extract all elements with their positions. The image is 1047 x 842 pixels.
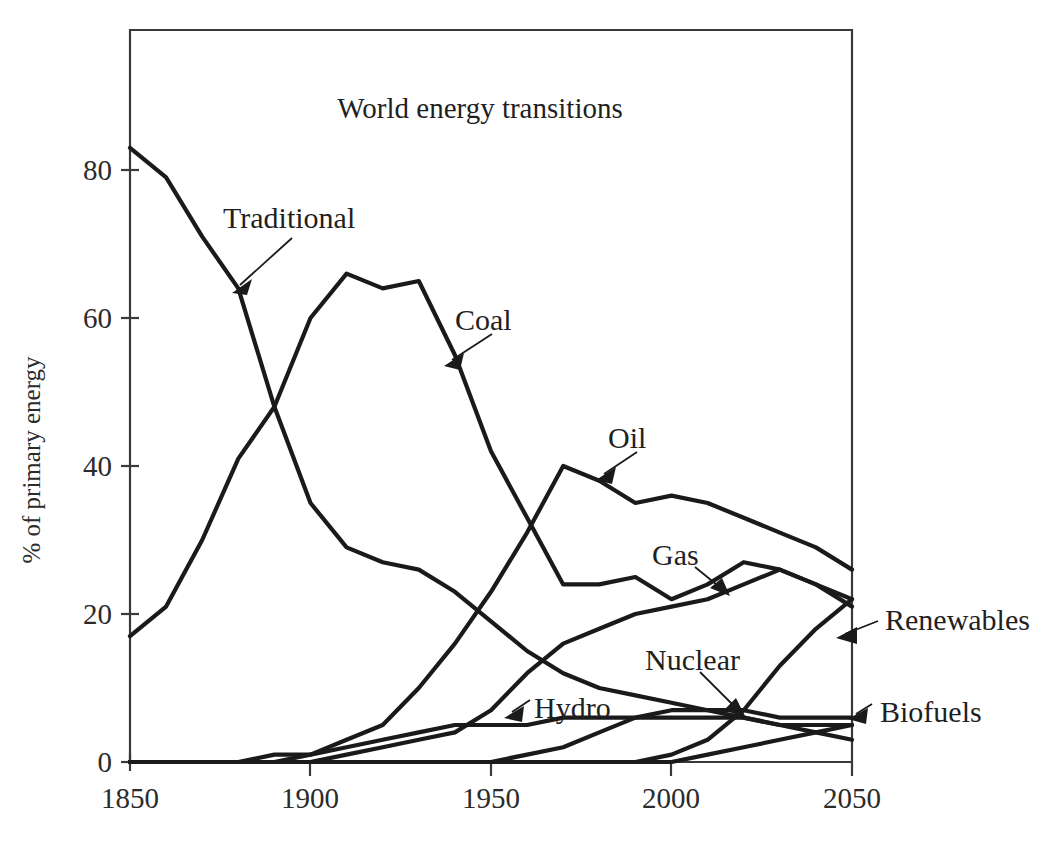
leader-line-traditional — [240, 238, 292, 285]
y-tick-label-60: 60 — [83, 302, 112, 334]
plot-frame — [130, 30, 852, 762]
x-tick-label-1900: 1900 — [281, 782, 339, 814]
leader-line-oil — [604, 452, 637, 474]
series-lines — [130, 148, 852, 762]
chart-figure: 0 20 40 60 80 1850 1900 1950 2000 2050 %… — [0, 0, 1047, 842]
leader-arrow-hydro — [504, 706, 524, 722]
series-label-traditional: Traditional — [223, 201, 355, 234]
y-tick-label-40: 40 — [83, 450, 112, 482]
y-tick-label-20: 20 — [83, 598, 112, 630]
x-tick-marks — [130, 753, 852, 776]
series-label-nuclear: Nuclear — [645, 643, 740, 676]
series-label-oil: Oil — [608, 421, 646, 454]
series-label-coal: Coal — [455, 303, 512, 336]
series-line-traditional — [130, 148, 852, 740]
series-label-gas: Gas — [652, 538, 699, 571]
page-title: World energy transitions — [337, 92, 622, 124]
leader-line-coal — [452, 334, 492, 360]
series-line-biofuels — [130, 725, 852, 762]
y-tick-label-80: 80 — [83, 154, 112, 186]
y-axis-title: % of primary energy — [18, 356, 45, 564]
series-label-hydro: Hydro — [534, 691, 611, 724]
x-tick-label-2000: 2000 — [642, 782, 700, 814]
y-tick-label-0: 0 — [98, 746, 113, 778]
world-energy-transitions-chart: 0 20 40 60 80 1850 1900 1950 2000 2050 %… — [0, 0, 1047, 842]
leader-arrow-renewables — [836, 627, 857, 644]
series-label-renewables: Renewables — [885, 603, 1030, 636]
x-tick-label-1850: 1850 — [101, 782, 159, 814]
x-tick-label-1950: 1950 — [462, 782, 520, 814]
series-label-biofuels: Biofuels — [880, 695, 982, 728]
series-line-gas — [130, 570, 852, 762]
x-tick-label-2050: 2050 — [823, 782, 881, 814]
